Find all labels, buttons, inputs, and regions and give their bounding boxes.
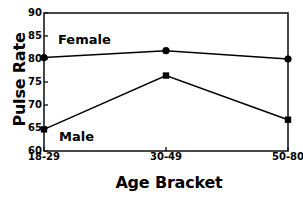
data-point-marker-male <box>163 72 169 78</box>
series-label-male: Male <box>59 130 94 143</box>
data-point-marker-female <box>284 55 291 62</box>
data-point-marker-male <box>41 126 47 132</box>
plot-area <box>0 0 303 201</box>
data-point-marker-female <box>162 47 169 54</box>
data-point-marker-male <box>285 117 291 123</box>
x-axis-tick-label: 30-49 <box>136 152 196 162</box>
series-line-male <box>44 76 288 130</box>
x-axis-title: Age Bracket <box>40 173 298 192</box>
data-series-group <box>40 47 291 132</box>
x-axis-tick-label: 50-80 <box>258 152 303 162</box>
series-label-female: Female <box>58 33 111 46</box>
x-axis-tick-label: 18-29 <box>14 152 74 162</box>
data-point-marker-female <box>40 54 47 61</box>
pulse-rate-line-chart: Pulse Rate 60657075808590 Female Male 18… <box>0 0 303 201</box>
